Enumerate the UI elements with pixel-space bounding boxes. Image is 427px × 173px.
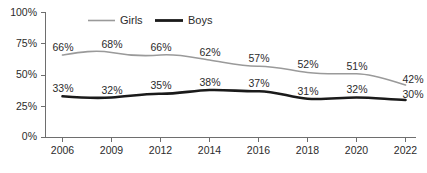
line-chart: 100% 75% 50% 25% 0% 2006 2009 2012 2014 … [0, 0, 427, 173]
x-tick-label: 2020 [345, 144, 369, 156]
boys-point-label: 37% [248, 77, 269, 89]
x-tick-label: 2006 [51, 144, 75, 156]
y-tick-label: 0% [22, 130, 37, 142]
chart-canvas: 100% 75% 50% 25% 0% 2006 2009 2012 2014 … [0, 0, 427, 173]
x-tick-label: 2018 [296, 144, 320, 156]
girls-point-label: 66% [52, 41, 73, 53]
girls-label-group: 66% 68% 66% 62% 57% 52% 51% 42% [52, 38, 423, 85]
boys-point-label: 38% [199, 76, 220, 88]
x-tick-label: 2009 [100, 144, 124, 156]
boys-point-label: 31% [297, 85, 318, 97]
boys-point-label: 30% [402, 88, 423, 100]
y-tick-label: 100% [10, 6, 37, 18]
x-tick-label: 2014 [198, 144, 222, 156]
girls-point-label: 51% [346, 60, 367, 72]
x-tick-label: 2012 [149, 144, 173, 156]
y-tick-label: 75% [16, 37, 37, 49]
boys-point-label: 35% [150, 79, 171, 91]
girls-point-label: 57% [248, 52, 269, 64]
y-tick-label: 50% [16, 68, 37, 80]
boys-point-label: 33% [52, 82, 73, 94]
x-tick-label: 2022 [394, 144, 418, 156]
x-tick-group: 2006 2009 2012 2014 2016 2018 2020 2022 [51, 138, 418, 157]
x-tick-label: 2016 [247, 144, 271, 156]
boys-point-label: 32% [346, 83, 367, 95]
boys-point-label: 32% [101, 84, 122, 96]
girls-point-label: 42% [402, 73, 423, 85]
legend-label-boys: Boys [188, 14, 213, 26]
girls-point-label: 52% [297, 58, 318, 70]
legend-label-girls: Girls [120, 14, 143, 26]
y-tick-group: 100% 75% 50% 25% 0% [10, 6, 45, 143]
y-tick-label: 25% [16, 100, 37, 112]
girls-point-label: 62% [199, 46, 220, 58]
chart-legend: Girls Boys [88, 14, 213, 26]
girls-point-label: 66% [150, 41, 171, 53]
girls-point-label: 68% [101, 38, 122, 50]
